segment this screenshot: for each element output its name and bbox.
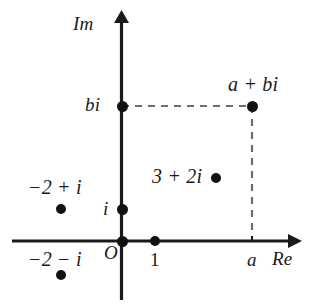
point-minus2-plus-i bbox=[56, 204, 66, 214]
axis-point-bi bbox=[117, 101, 128, 112]
point-3-plus-2i bbox=[211, 173, 221, 183]
complex-plane-figure: Im Re a O 1 i bi a + bi 3 + 2i −2 + i −2… bbox=[0, 0, 309, 308]
axis-point-one bbox=[150, 236, 160, 246]
real-axis-arrow bbox=[288, 234, 302, 248]
tick-label-one: 1 bbox=[150, 250, 160, 269]
tick-label-i: i bbox=[103, 199, 108, 218]
axis-point-i bbox=[117, 204, 128, 215]
point-label-minus2-plus-i: −2 + i bbox=[28, 177, 82, 197]
imaginary-axis-label: Im bbox=[73, 14, 93, 33]
real-axis-label: Re bbox=[272, 249, 292, 268]
point-label-minus2-minus-i: −2 − i bbox=[28, 249, 82, 269]
axis-point-origin bbox=[117, 236, 128, 247]
tick-label-bi: bi bbox=[85, 95, 100, 114]
point-label-a-plus-bi: a + bi bbox=[228, 74, 278, 94]
origin-label: O bbox=[104, 243, 118, 262]
point-minus2-minus-i bbox=[56, 270, 66, 280]
imaginary-axis-arrow bbox=[114, 10, 129, 23]
tick-label-a: a bbox=[247, 250, 257, 269]
point-label-3-plus-2i: 3 + 2i bbox=[152, 166, 202, 186]
point-a-plus-bi bbox=[247, 101, 258, 112]
